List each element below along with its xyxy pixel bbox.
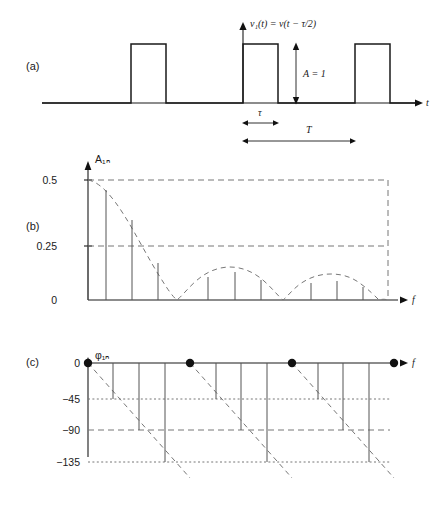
panel-b-y-axis-arrow-icon <box>85 161 92 170</box>
panel-a-axis-arrow-up-icon <box>239 22 246 30</box>
panel-a-tau-arrow-left-icon <box>242 120 248 126</box>
panel-b-ytick-0: 0.5 <box>42 174 57 186</box>
panel-b-x-axis-arrow-icon <box>400 296 408 303</box>
panel-c-label: (c) <box>26 356 39 368</box>
panel-c-zero-marker-3 <box>390 359 398 367</box>
panel-c-y-axis-label: φ₁ₙ <box>95 349 109 361</box>
panel-a-period-arrow-left-icon <box>242 138 248 144</box>
panel-c-ytick-2: −90 <box>62 424 80 436</box>
panel-c-x-axis-label: f <box>412 357 416 368</box>
panel-b-ytick-1: 0.25 <box>37 240 58 252</box>
panel-a-tau-label: τ <box>258 107 262 118</box>
figure-container: (a) t v₁(t) = v(t − τ/2) A = 1 τ T (b) <box>0 0 447 515</box>
panel-a-period-label: T <box>306 124 313 135</box>
figure-svg: (a) t v₁(t) = v(t − τ/2) A = 1 τ T (b) <box>0 0 447 515</box>
panel-a-axis-arrow-icon <box>415 99 423 106</box>
panel-a-x-axis-label: t <box>426 97 429 108</box>
panel-c-zero-marker-0 <box>84 359 92 367</box>
panel-b-ytick-2: 0 <box>51 294 57 306</box>
panel-c-ytick-1: −45 <box>62 393 80 405</box>
panel-c-ytick-3: −135 <box>56 456 80 468</box>
panel-b-sinc-envelope <box>88 180 388 300</box>
panel-c-x-axis-arrow-icon <box>400 359 408 366</box>
panel-b-y-axis-label: A₁ₙ <box>95 153 110 165</box>
panel-c: (c) φ₁ₙ f 0 −45 −90 −135 <box>26 349 416 478</box>
panel-c-zero-marker-2 <box>288 359 296 367</box>
panel-a: (a) t v₁(t) = v(t − τ/2) A = 1 τ T <box>26 18 429 144</box>
panel-b-guide-0p5 <box>88 180 388 300</box>
panel-a-signal-label: v₁(t) = v(t − τ/2) <box>250 18 317 30</box>
panel-a-amplitude-label: A = 1 <box>302 68 326 79</box>
panel-a-label: (a) <box>26 60 39 72</box>
panel-b-x-axis-label: f <box>412 294 416 305</box>
panel-b: (b) A₁ₙ f 0.5 0.25 0 <box>26 153 416 306</box>
panel-a-amplitude-arrow-up-icon <box>293 43 299 51</box>
panel-a-pulse-train <box>42 44 415 103</box>
panel-a-period-arrow-right-icon <box>350 138 356 144</box>
panel-a-tau-arrow-right-icon <box>273 120 279 126</box>
panel-b-label: (b) <box>26 220 39 232</box>
panel-c-zero-marker-1 <box>186 359 194 367</box>
panel-c-ytick-0: 0 <box>74 357 80 369</box>
